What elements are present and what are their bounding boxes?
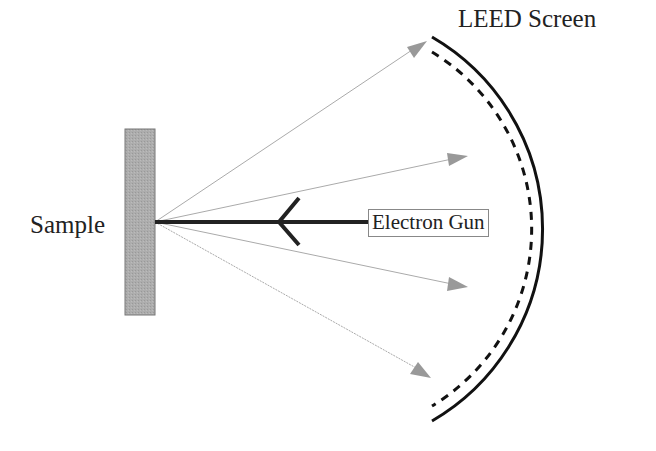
sample-label: Sample xyxy=(30,212,105,237)
electron-gun-label: Electron Gun xyxy=(368,209,489,237)
arrowhead-4-icon xyxy=(410,362,431,378)
arrowhead-2-icon xyxy=(447,153,468,166)
diffracted-beam-4 xyxy=(155,222,418,369)
diffracted-beam-1 xyxy=(155,48,415,222)
sample-block xyxy=(125,129,155,315)
arrowhead-3-icon xyxy=(447,277,468,291)
leed-screen-label: LEED Screen xyxy=(458,6,596,31)
arrowhead-1-icon xyxy=(407,41,427,58)
